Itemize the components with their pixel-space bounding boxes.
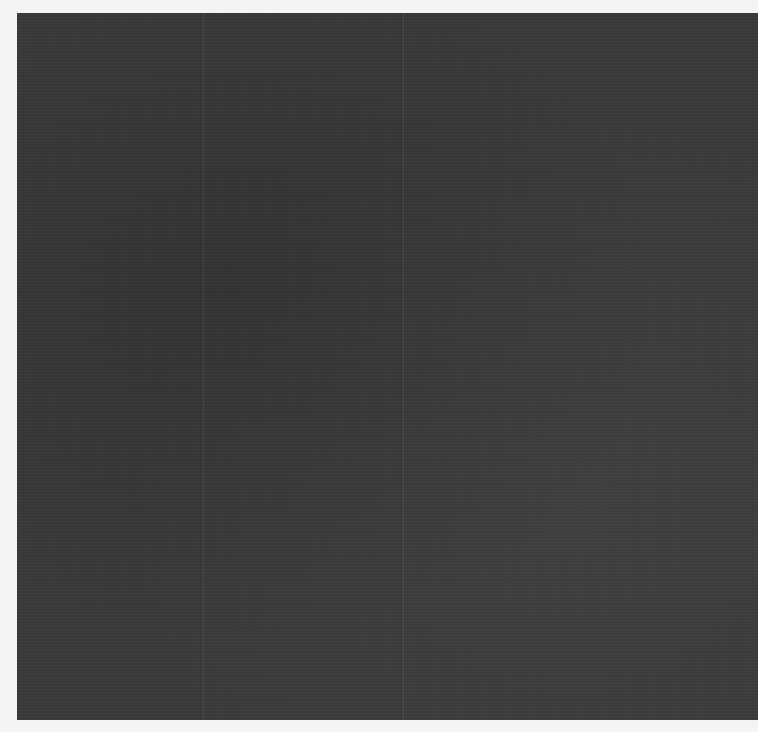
fabric-seam-line (203, 13, 204, 720)
fabric-seam-line (403, 13, 404, 720)
fabric-texture (17, 13, 758, 720)
